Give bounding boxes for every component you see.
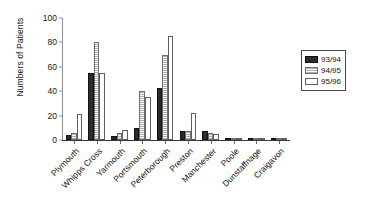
bar-group — [225, 18, 242, 140]
bar — [259, 138, 265, 140]
x-tick-mark — [165, 141, 166, 144]
y-tick-mark — [59, 66, 62, 67]
x-tick-mark — [142, 141, 143, 144]
bar-group — [180, 18, 197, 140]
legend-swatch-icon — [305, 78, 318, 85]
legend-entry: 95/96 — [305, 76, 341, 87]
bar-group — [248, 18, 265, 140]
bar — [99, 73, 105, 140]
bar — [122, 130, 128, 140]
bar — [191, 113, 197, 140]
x-tick-mark — [279, 141, 280, 144]
legend-swatch-icon — [305, 67, 318, 74]
y-tick-mark — [59, 18, 62, 19]
y-tick-mark — [59, 115, 62, 116]
bar-chart-figure: Numbers of Patients 020406080100 Plymout… — [0, 0, 384, 205]
bar — [282, 138, 288, 140]
bar-group — [134, 18, 151, 140]
y-tick-mark — [59, 140, 62, 141]
bar — [77, 114, 83, 140]
x-tick-mark — [97, 141, 98, 144]
bar-group — [157, 18, 174, 140]
legend-label: 94/95 — [321, 66, 341, 75]
bar-group — [88, 18, 105, 140]
bar-group — [271, 18, 288, 140]
x-tick-mark — [120, 141, 121, 144]
bar — [145, 97, 151, 140]
y-tick-mark — [59, 42, 62, 43]
x-tick-mark — [188, 141, 189, 144]
x-tick-mark — [256, 141, 257, 144]
legend-entry: 93/94 — [305, 54, 341, 65]
legend-swatch-icon — [305, 56, 318, 63]
legend-entry: 94/95 — [305, 65, 341, 76]
x-tick-mark — [234, 141, 235, 144]
legend-label: 95/96 — [321, 77, 341, 86]
plot-area: 020406080100 — [62, 18, 290, 141]
bar-group — [111, 18, 128, 140]
y-axis-line — [62, 18, 63, 141]
chart-legend: 93/9494/9595/96 — [301, 50, 346, 91]
x-tick-mark — [211, 141, 212, 144]
legend-label: 93/94 — [321, 55, 341, 64]
bar-group — [66, 18, 83, 140]
x-axis-labels: PlymouthWhipps CrossYarmouthPortsmouthPe… — [62, 146, 290, 204]
y-tick-mark — [59, 91, 62, 92]
bar — [236, 138, 242, 140]
bar-group — [202, 18, 219, 140]
x-tick-mark — [74, 141, 75, 144]
y-axis-label: Numbers of Patients — [15, 0, 25, 117]
bar — [168, 36, 174, 140]
bar — [213, 134, 219, 140]
